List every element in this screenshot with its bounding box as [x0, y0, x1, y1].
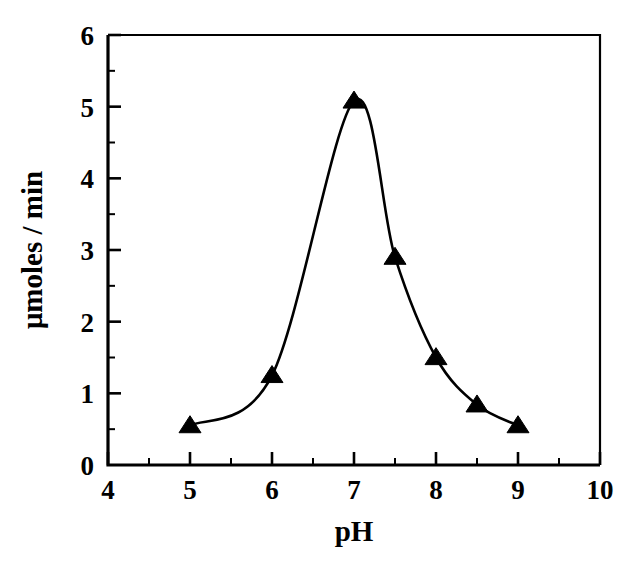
data-point-marker [507, 416, 529, 433]
y-axis-title: μmoles / min [16, 171, 48, 329]
x-tick-label: 4 [101, 475, 115, 505]
x-tick-label: 8 [429, 475, 443, 505]
x-axis-title: pH [335, 515, 374, 547]
x-tick-label: 9 [511, 475, 525, 505]
y-tick-label: 4 [81, 164, 95, 194]
chart-figure: 45678910 0123456 pH μmoles / min [0, 0, 641, 561]
data-point-marker [425, 348, 447, 365]
y-tick-label: 2 [81, 308, 95, 338]
y-tick-label: 1 [81, 379, 95, 409]
x-tick-label: 10 [587, 475, 614, 505]
x-tick-label: 5 [183, 475, 197, 505]
y-axis-tick-labels: 0123456 [81, 21, 95, 481]
x-axis-tick-labels: 45678910 [101, 475, 613, 505]
y-tick-label: 0 [81, 451, 95, 481]
data-series-line [190, 99, 518, 426]
data-point-marker [384, 247, 406, 264]
x-axis-major-ticks [108, 452, 600, 465]
y-tick-label: 3 [81, 236, 95, 266]
data-series-markers [179, 91, 529, 433]
ph-activity-line-chart: 45678910 0123456 pH μmoles / min [0, 0, 641, 561]
y-tick-label: 5 [81, 93, 95, 123]
y-tick-label: 6 [81, 21, 95, 51]
x-tick-label: 6 [265, 475, 279, 505]
x-tick-label: 7 [347, 475, 361, 505]
data-point-marker [261, 366, 283, 383]
